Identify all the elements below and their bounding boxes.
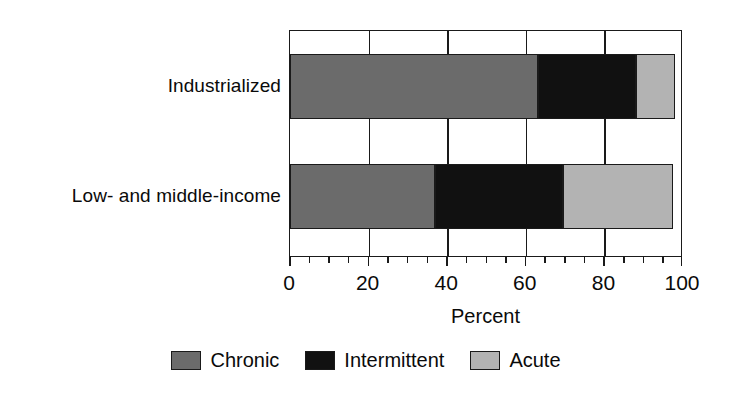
x-tick-5 [309, 257, 311, 263]
x-tick-25 [387, 257, 389, 263]
legend-label-acute: Acute [509, 349, 560, 371]
bar-segment-acute [563, 164, 673, 229]
x-tick-15 [348, 257, 350, 263]
legend-label-chronic: Chronic [210, 349, 279, 371]
legend-item-intermittent[interactable]: Intermittent [305, 349, 444, 371]
legend-label-intermittent: Intermittent [344, 349, 444, 371]
legend-swatch-intermittent [305, 351, 335, 370]
chart-legend: ChronicIntermittentAcute [0, 349, 732, 371]
x-tick-0 [289, 257, 291, 266]
x-tick-55 [505, 257, 507, 263]
y-axis-category-label-low-and-middle-income: Low- and middle-income [0, 186, 281, 205]
legend-swatch-chronic [171, 351, 201, 370]
x-axis-title: Percent [289, 305, 682, 327]
x-tick-20 [368, 257, 370, 266]
x-tick-90 [643, 257, 645, 263]
x-tick-label-100: 100 [647, 271, 717, 295]
bar-segment-chronic [290, 54, 538, 119]
plot-area [289, 30, 682, 257]
x-axis-ticks [289, 257, 682, 266]
x-tick-100 [681, 257, 683, 266]
bar-segment-acute [636, 54, 675, 119]
stacked-bar-chart: Industrialized Low- and middle-income 02… [0, 0, 732, 404]
x-tick-10 [328, 257, 330, 263]
legend-item-chronic[interactable]: Chronic [171, 349, 279, 371]
legend-swatch-acute [470, 351, 500, 370]
x-tick-30 [407, 257, 409, 263]
x-tick-label-80: 80 [568, 271, 638, 295]
x-tick-label-0: 0 [254, 271, 324, 295]
x-tick-label-20: 20 [333, 271, 403, 295]
x-tick-35 [427, 257, 429, 263]
x-tick-70 [564, 257, 566, 263]
legend-item-acute[interactable]: Acute [470, 349, 560, 371]
x-tick-60 [525, 257, 527, 266]
bar-segment-intermittent [435, 164, 563, 229]
y-axis-category-label-industrialized: Industrialized [0, 76, 281, 95]
x-tick-95 [662, 257, 664, 263]
x-tick-label-40: 40 [411, 271, 481, 295]
x-tick-45 [466, 257, 468, 263]
x-tick-40 [446, 257, 448, 266]
x-tick-label-60: 60 [490, 271, 560, 295]
x-tick-85 [623, 257, 625, 263]
bar-segment-intermittent [538, 54, 636, 119]
x-tick-65 [544, 257, 546, 263]
x-tick-50 [486, 257, 488, 263]
x-tick-75 [584, 257, 586, 263]
x-tick-80 [603, 257, 605, 266]
bar-segment-chronic [290, 164, 435, 229]
